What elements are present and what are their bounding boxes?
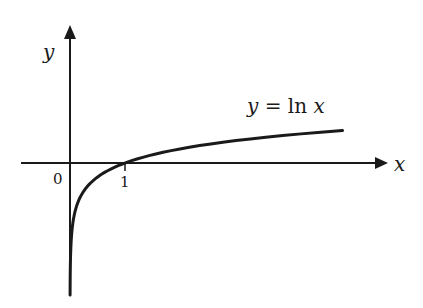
origin-label: 0 bbox=[53, 170, 63, 188]
x-axis-arrow-icon bbox=[375, 157, 388, 169]
y-axis-label: y bbox=[43, 40, 54, 64]
ln-curve bbox=[70, 131, 342, 295]
y-axis-arrow-icon bbox=[64, 25, 76, 39]
curve-eq-x: x bbox=[313, 94, 324, 118]
curve-eq-fn: ln bbox=[288, 94, 307, 118]
ln-graph bbox=[0, 0, 423, 308]
curve-equation-label: y = ln x bbox=[247, 94, 325, 118]
curve-eq-equals: = bbox=[258, 94, 287, 118]
x-axis-label: x bbox=[394, 152, 405, 176]
x-tick-label-1: 1 bbox=[120, 173, 130, 191]
curve-eq-y: y bbox=[247, 94, 258, 118]
